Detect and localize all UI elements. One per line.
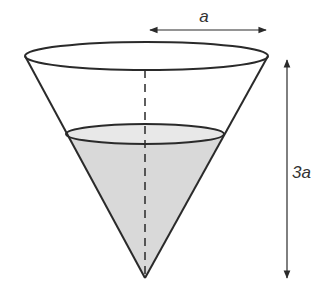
radius-label: a bbox=[199, 7, 208, 26]
cone-rim bbox=[25, 42, 268, 70]
height-label: 3a bbox=[292, 163, 311, 182]
cone-figure: a 3a bbox=[0, 0, 322, 298]
cone-diagram: a 3a bbox=[0, 0, 322, 298]
